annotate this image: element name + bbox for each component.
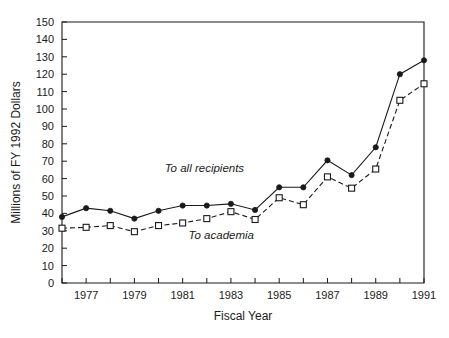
y-axis-tick-marks — [62, 22, 67, 283]
data-point-marker — [228, 201, 233, 206]
y-tick-label: 130 — [36, 51, 54, 63]
data-point-marker — [204, 216, 210, 222]
x-tick-label: 1979 — [122, 289, 146, 301]
series-lines — [62, 60, 424, 231]
y-tick-label: 20 — [42, 242, 54, 254]
data-point-marker — [108, 208, 113, 213]
data-point-marker — [421, 58, 426, 63]
y-tick-label: 100 — [36, 103, 54, 115]
data-point-marker — [301, 185, 306, 190]
x-tick-label: 1981 — [170, 289, 194, 301]
data-point-marker — [373, 145, 378, 150]
plot-frame — [62, 22, 424, 283]
data-point-marker — [252, 207, 257, 212]
x-tick-label: 1983 — [219, 289, 243, 301]
data-point-marker — [156, 223, 162, 229]
line-chart: 0102030405060708090100110120130140150 19… — [0, 0, 449, 338]
data-point-marker — [277, 185, 282, 190]
y-tick-label: 110 — [36, 86, 54, 98]
data-point-marker — [180, 220, 186, 226]
y-tick-label: 10 — [42, 260, 54, 272]
y-tick-label: 60 — [42, 173, 54, 185]
data-point-marker — [228, 209, 234, 215]
x-axis-title: Fiscal Year — [214, 309, 273, 323]
data-point-marker — [132, 216, 137, 221]
x-tick-label: 1977 — [74, 289, 98, 301]
y-axis-tick-labels: 0102030405060708090100110120130140150 — [36, 16, 54, 289]
data-point-marker — [252, 216, 258, 222]
series-annotation: To academia — [189, 229, 254, 241]
y-tick-label: 30 — [42, 225, 54, 237]
data-point-marker — [324, 174, 330, 180]
x-tick-label: 1987 — [315, 289, 339, 301]
x-axis-tick-labels: 19771979198119831985198719891991 — [74, 289, 436, 301]
x-tick-label: 1991 — [412, 289, 436, 301]
data-point-marker — [204, 203, 209, 208]
chart-page: 0102030405060708090100110120130140150 19… — [0, 0, 449, 338]
data-point-marker — [59, 214, 64, 219]
data-point-marker — [276, 195, 282, 201]
series-annotation: To all recipients — [165, 162, 245, 174]
data-point-marker — [83, 224, 89, 230]
x-axis-tick-marks — [62, 278, 424, 283]
data-point-marker — [349, 185, 355, 191]
y-tick-label: 80 — [42, 138, 54, 150]
y-tick-label: 70 — [42, 155, 54, 167]
data-point-marker — [180, 203, 185, 208]
data-point-marker — [397, 72, 402, 77]
data-point-marker — [59, 225, 65, 231]
y-axis-title: Millions of FY 1992 Dollars — [9, 81, 23, 224]
data-point-marker — [421, 81, 427, 87]
series-markers — [59, 58, 427, 235]
series-annotations: To all recipientsTo academia — [165, 162, 254, 241]
series-line-1 — [62, 60, 424, 218]
x-tick-label: 1989 — [363, 289, 387, 301]
data-point-marker — [156, 208, 161, 213]
series-line-2 — [62, 84, 424, 232]
y-tick-label: 0 — [48, 277, 54, 289]
y-tick-label: 40 — [42, 207, 54, 219]
data-point-marker — [300, 202, 306, 208]
y-tick-label: 50 — [42, 190, 54, 202]
data-point-marker — [107, 223, 113, 229]
x-tick-label: 1985 — [267, 289, 291, 301]
y-tick-label: 120 — [36, 68, 54, 80]
data-point-marker — [373, 166, 379, 172]
y-tick-label: 90 — [42, 120, 54, 132]
data-point-marker — [325, 158, 330, 163]
y-tick-label: 140 — [36, 33, 54, 45]
data-point-marker — [349, 173, 354, 178]
axis-frame — [62, 22, 424, 283]
data-point-marker — [397, 97, 403, 103]
y-tick-label: 150 — [36, 16, 54, 28]
data-point-marker — [131, 229, 137, 235]
data-point-marker — [84, 206, 89, 211]
